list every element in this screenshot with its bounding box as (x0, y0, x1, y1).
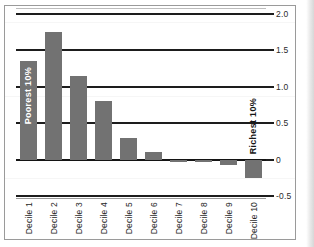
y-axis-tick-label: 1.5 (276, 45, 288, 55)
plot-top-rule (16, 8, 266, 9)
page-edge-shading (301, 0, 314, 247)
x-axis-tick-label: Decile 1 (24, 202, 34, 234)
x-axis-tick-label: Decile 5 (124, 202, 134, 234)
x-axis-tick-label: Decile 8 (199, 202, 209, 234)
y-axis-tick-label: -0.5 (276, 191, 291, 201)
bar (220, 160, 237, 165)
y-axis-tick-label: 1.0 (276, 82, 288, 92)
bar (95, 101, 112, 159)
poorest-decile-annotation: Poorest 10% (23, 67, 33, 124)
x-axis-divider (16, 198, 266, 199)
x-axis-tick-label: Decile 4 (99, 202, 109, 234)
y-axis-tick-label: 2.0 (276, 9, 288, 19)
y-axis-tick-mark (266, 122, 274, 124)
bar (170, 160, 187, 162)
x-axis-tick-label: Decile 9 (224, 202, 234, 234)
figure-canvas: Poorest 10%Richest 10% Decile 1Decile 2D… (0, 0, 314, 247)
bar (145, 152, 162, 159)
y-axis-tick-mark (266, 159, 274, 161)
x-axis-tick-label: Decile 10 (249, 202, 259, 239)
bar (195, 160, 212, 162)
x-axis-tick-label: Decile 3 (74, 202, 84, 234)
bar-chart-plot-area: Poorest 10%Richest 10% (16, 14, 266, 196)
bar (45, 32, 62, 159)
y-axis-tick-mark (266, 49, 274, 51)
y-axis-tick-mark (266, 195, 274, 197)
y-axis-tick-label: 0 (276, 155, 281, 165)
x-axis-tick-label: Decile 2 (49, 202, 59, 234)
y-axis-tick-mark (266, 86, 274, 88)
x-axis-labels: Decile 1Decile 2Decile 3Decile 4Decile 5… (16, 198, 266, 238)
bar (120, 138, 137, 160)
bar (70, 76, 87, 160)
bar (245, 160, 262, 178)
bar-series: Poorest 10%Richest 10% (16, 14, 266, 196)
y-axis-tick-mark (266, 13, 274, 15)
x-axis-tick-label: Decile 7 (174, 202, 184, 234)
richest-decile-annotation: Richest 10% (248, 98, 258, 154)
y-axis-tick-label: 0.5 (276, 118, 288, 128)
x-axis-tick-label: Decile 6 (149, 202, 159, 234)
